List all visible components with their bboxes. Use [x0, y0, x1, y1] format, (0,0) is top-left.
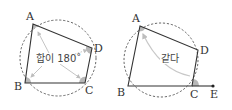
annotation-equal: 같다: [161, 53, 179, 64]
diagram-canvas: 합이 180˚ A B C D 같다 A B C D E: [0, 0, 232, 110]
left-figure: 합이 180˚ A B C D: [14, 10, 103, 97]
label-d: D: [200, 44, 209, 57]
arrow-to-b: [31, 66, 42, 77]
arrow-to-a: [38, 32, 50, 55]
label-c: C: [190, 88, 198, 101]
label-c: C: [85, 84, 93, 97]
arrow-to-c: [60, 64, 80, 78]
label-e: E: [210, 88, 218, 101]
label-b: B: [117, 86, 125, 99]
label-d: D: [94, 42, 103, 55]
right-figure: 같다 A B C D E: [117, 12, 218, 101]
label-a: A: [25, 10, 35, 23]
annotation-sum-180: 합이 180˚: [36, 53, 81, 64]
label-b: B: [14, 80, 22, 93]
label-a: A: [131, 12, 141, 25]
